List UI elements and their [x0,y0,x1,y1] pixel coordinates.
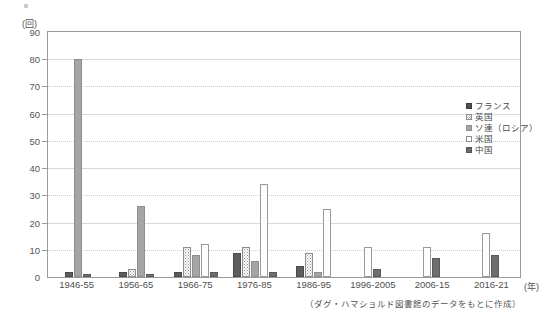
legend-swatch-icon [466,125,472,131]
y-axis-tick-label: 0 [35,272,40,283]
bar-group [107,32,166,277]
bar-france [174,272,182,277]
bar-china [269,272,277,277]
legend-item-label: ソ連（ロシア） [475,124,538,133]
x-axis-tick-label: 1966-75 [166,279,225,295]
x-axis-tick-label: 1956-65 [106,279,165,295]
bar-ussr [251,261,259,277]
x-axis-tick-label: 2016-21 [462,279,521,295]
y-axis-tick-label: 70 [29,81,40,92]
bar-groups [48,32,520,277]
legend-item-label: 中国 [475,146,493,155]
legend-item-label: 米国 [475,135,493,144]
bar-group [343,32,402,277]
bar-china [491,255,499,277]
bar-usa [364,247,372,277]
bar-ussr [74,59,82,277]
bar-france [296,266,304,277]
bar-france [233,253,241,278]
x-axis-tick-label: 1996-2005 [343,279,402,295]
legend: フランス英国ソ連（ロシア）米国中国 [466,102,538,155]
bar-uk [242,247,250,277]
y-axis-tick-label: 60 [29,108,40,119]
x-axis-tick-label: 1976-85 [225,279,284,295]
legend-item-uk: 英国 [466,113,538,122]
x-axis-tick-label: 1986-95 [284,279,343,295]
legend-item-label: フランス [475,102,511,111]
bar-china [146,274,154,277]
legend-item-label: 英国 [475,113,493,122]
legend-item-france: フランス [466,102,538,111]
bar-uk [128,269,136,277]
x-axis-unit-label: (年) [524,280,539,293]
legend-item-ussr: ソ連（ロシア） [466,124,538,133]
y-axis-tick-label: 20 [29,217,40,228]
source-note: （ダグ・ハマショルド図書館のデータをもとに作成） [305,297,521,309]
y-axis-tick-label: 80 [29,54,40,65]
bar-usa [482,233,490,277]
bar-usa [323,209,331,277]
bar-ussr [137,206,145,277]
legend-swatch-icon [466,136,472,142]
bar-china [210,272,218,277]
bar-group [225,32,284,277]
bar-group [166,32,225,277]
bar-group [48,32,107,277]
y-axis-tick-label: 90 [29,27,40,38]
legend-item-china: 中国 [466,146,538,155]
bar-france [119,272,127,277]
legend-swatch-icon [466,114,472,120]
x-axis-labels: 1946-551956-651966-751976-851986-951996-… [47,279,521,295]
x-axis-tick-label: 2006-15 [403,279,462,295]
bar-uk [183,247,191,277]
y-axis-tick-label: 50 [29,135,40,146]
bar-group [402,32,461,277]
y-axis-tick-label: 40 [29,163,40,174]
scan-speck [24,4,28,8]
legend-swatch-icon [466,147,472,153]
bar-china [83,274,91,277]
bar-ussr [314,272,322,277]
y-axis-tick-label: 10 [29,244,40,255]
legend-item-usa: 米国 [466,135,538,144]
x-axis-tick-label: 1946-55 [47,279,106,295]
bar-ussr [192,255,200,277]
bar-china [432,258,440,277]
bar-china [373,269,381,277]
bar-group [284,32,343,277]
bar-usa [201,244,209,277]
bar-usa [423,247,431,277]
bar-uk [305,253,313,278]
y-axis-tick-label: 30 [29,190,40,201]
y-axis-labels: 0102030405060708090 [0,31,45,278]
plot-area: フランス英国ソ連（ロシア）米国中国 [47,31,521,278]
bar-france [65,272,73,277]
legend-swatch-icon [466,103,472,109]
bar-usa [260,184,268,277]
chart-figure: (回) 0102030405060708090 フランス英国ソ連（ロシア）米国中… [0,0,546,324]
